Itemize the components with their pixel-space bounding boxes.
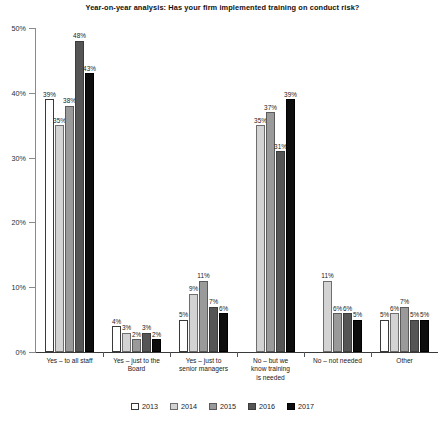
bar-2015-group-2 — [132, 339, 141, 352]
bar-value-label: 4% — [112, 318, 121, 325]
legend-swatch-icon — [131, 403, 139, 411]
bar-value-label: 3% — [122, 324, 131, 331]
bar-2017-group-5 — [353, 320, 362, 352]
y-axis-tick-label: 10% — [0, 283, 26, 292]
bar-value-label: 5% — [179, 311, 188, 318]
bar-value-label: 48% — [73, 32, 86, 39]
legend-item-2016[interactable]: 2016 — [248, 402, 275, 411]
x-axis-label-group-1: Yes – to all staff — [32, 357, 107, 365]
x-axis-group-tick — [170, 352, 171, 357]
bar-2016-group-6 — [410, 320, 419, 352]
y-axis-tick-label: 0% — [0, 348, 26, 357]
bar-value-label: 5% — [380, 311, 389, 318]
legend-swatch-icon — [287, 403, 295, 411]
y-axis-tick — [29, 28, 36, 29]
legend-label: 2014 — [181, 402, 197, 411]
bar-value-label: 2% — [152, 331, 161, 338]
bar-2017-group-1 — [85, 73, 94, 352]
y-axis-tick — [29, 93, 36, 94]
bar-2013-group-3 — [179, 320, 188, 352]
bar-value-label: 3% — [142, 324, 151, 331]
x-axis-group-tick — [304, 352, 305, 357]
legend-label: 2015 — [220, 402, 236, 411]
bar-value-label: 37% — [264, 104, 277, 111]
legend-label: 2017 — [298, 402, 314, 411]
bar-2017-group-6 — [420, 320, 429, 352]
bar-value-label: 5% — [420, 311, 429, 318]
bar-2017-group-2 — [152, 339, 161, 352]
bar-value-label: 7% — [209, 298, 218, 305]
y-axis-tick-label: 50% — [0, 24, 26, 33]
y-axis-tick — [29, 158, 36, 159]
legend-item-2014[interactable]: 2014 — [170, 402, 197, 411]
bar-2014-group-1 — [55, 125, 64, 352]
bar-2013-group-2 — [112, 326, 121, 352]
x-axis-label-group-6: Other — [367, 357, 442, 365]
bar-2014-group-4 — [256, 125, 265, 352]
bar-2016-group-5 — [343, 313, 352, 352]
bar-value-label: 35% — [53, 117, 66, 124]
x-axis-label-line: Board — [99, 365, 174, 373]
x-axis-label-line: Other — [367, 357, 442, 365]
x-axis-group-tick — [103, 352, 104, 357]
bar-2016-group-1 — [75, 41, 84, 352]
x-axis-group-tick — [237, 352, 238, 357]
x-axis-label-group-3: Yes – just tosenior managers — [166, 357, 241, 374]
legend-swatch-icon — [170, 403, 178, 411]
x-axis-label-line: is needed — [233, 374, 308, 382]
legend-label: 2016 — [259, 402, 275, 411]
legend-item-2013[interactable]: 2013 — [131, 402, 158, 411]
x-axis-group-tick — [371, 352, 372, 357]
bar-2016-group-2 — [142, 333, 151, 352]
bar-2013-group-1 — [45, 99, 54, 352]
x-axis-label-line: Yes – just to — [166, 357, 241, 365]
bar-value-label: 6% — [390, 305, 399, 312]
bar-value-label: 11% — [321, 272, 333, 279]
bar-2014-group-2 — [122, 333, 131, 352]
legend-item-2015[interactable]: 2015 — [209, 402, 236, 411]
bar-value-label: 31% — [274, 143, 287, 150]
bar-2016-group-4 — [276, 151, 285, 352]
bar-value-label: 6% — [219, 305, 228, 312]
y-axis-tick — [29, 222, 36, 223]
bar-value-label: 35% — [254, 117, 267, 124]
plot-area: 39%35%38%48%43%4%3%2%3%2%5%9%11%7%6%35%3… — [36, 28, 438, 352]
bar-2014-group-6 — [390, 313, 399, 352]
x-axis-label-line: Yes – just to the — [99, 357, 174, 365]
chart-title: Year-on-year analysis: Has your firm imp… — [0, 3, 445, 12]
y-axis-tick-label: 40% — [0, 88, 26, 97]
x-axis-label-group-2: Yes – just to theBoard — [99, 357, 174, 374]
bar-value-label: 6% — [343, 305, 352, 312]
bar-2017-group-3 — [219, 313, 228, 352]
x-axis-label-group-5: No – not needed — [300, 357, 375, 365]
bar-2014-group-5 — [323, 281, 332, 352]
y-axis-tick — [29, 287, 36, 288]
bar-value-label: 6% — [333, 305, 342, 312]
x-axis-label-line: know training — [233, 365, 308, 373]
bar-value-label: 5% — [410, 311, 419, 318]
bar-value-label: 5% — [353, 311, 362, 318]
bar-2015-group-3 — [199, 281, 208, 352]
x-axis-label-line: Yes – to all staff — [32, 357, 107, 365]
bar-value-label: 9% — [189, 285, 198, 292]
bar-value-label: 11% — [197, 272, 209, 279]
bar-2014-group-3 — [189, 294, 198, 352]
bar-2015-group-1 — [65, 106, 74, 352]
bar-2015-group-6 — [400, 307, 409, 352]
bar-2015-group-5 — [333, 313, 342, 352]
x-axis-label-group-4: No – but weknow trainingis needed — [233, 357, 308, 382]
bar-value-label: 2% — [132, 331, 141, 338]
y-axis-tick — [29, 352, 36, 353]
bar-2017-group-4 — [286, 99, 295, 352]
chart-container: Year-on-year analysis: Has your firm imp… — [0, 0, 445, 422]
chart-legend: 20132014201520162017 — [0, 402, 445, 411]
legend-swatch-icon — [209, 403, 217, 411]
x-axis-label-line: No – but we — [233, 357, 308, 365]
bar-2013-group-6 — [380, 320, 389, 352]
bar-value-label: 38% — [63, 97, 76, 104]
bar-value-label: 39% — [284, 91, 297, 98]
legend-item-2017[interactable]: 2017 — [287, 402, 314, 411]
bar-2016-group-3 — [209, 307, 218, 352]
x-axis-label-line: No – not needed — [300, 357, 375, 365]
bar-value-label: 43% — [83, 65, 96, 72]
